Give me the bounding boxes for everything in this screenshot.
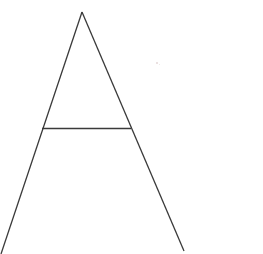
letter-a-figure [0, 0, 263, 254]
drawing-canvas [0, 0, 263, 254]
